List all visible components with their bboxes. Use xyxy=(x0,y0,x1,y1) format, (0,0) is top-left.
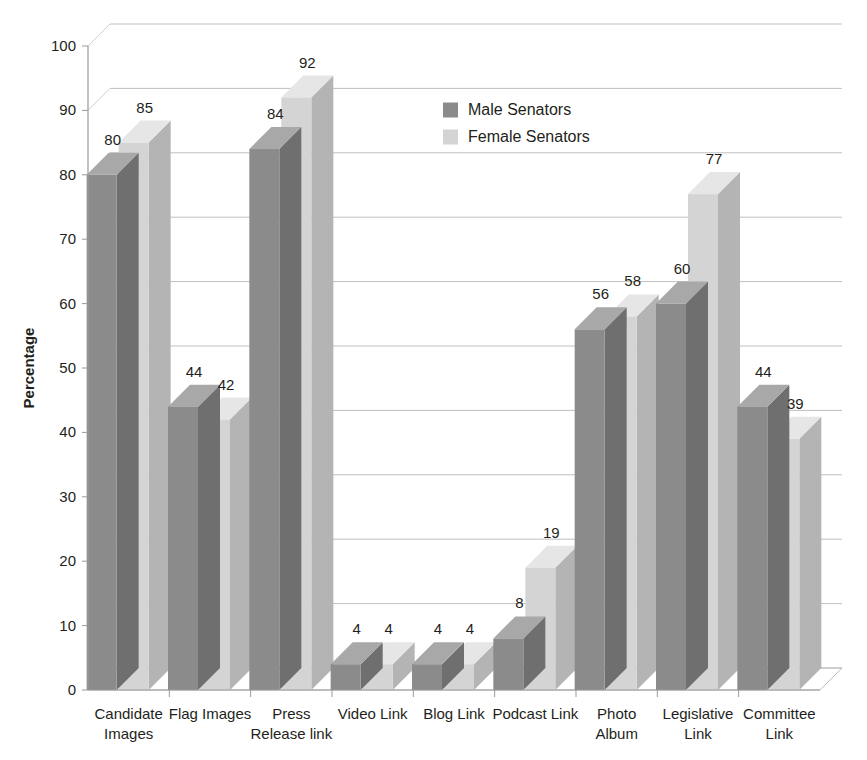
x-axis-category-label: Images xyxy=(104,725,153,742)
y-axis-tick-label: 20 xyxy=(59,552,76,569)
x-axis-category-label: Blog Link xyxy=(423,705,485,722)
bar-value-label: 44 xyxy=(755,363,772,380)
y-axis-tick-label: 60 xyxy=(59,295,76,312)
bar-front-face xyxy=(493,638,523,690)
y-axis-tick-label: 30 xyxy=(59,488,76,505)
bar-value-label: 44 xyxy=(186,363,203,380)
x-axis-category-label: Committee xyxy=(743,705,816,722)
bar-value-label: 58 xyxy=(624,272,641,289)
legend-label: Male Senators xyxy=(468,101,571,118)
legend-swatch xyxy=(443,130,458,145)
bar-side-face xyxy=(198,385,220,690)
bar-value-label: 85 xyxy=(136,99,153,116)
bar-side-face xyxy=(767,385,789,690)
bar-value-label: 92 xyxy=(299,54,316,71)
bar-value-label: 42 xyxy=(218,376,235,393)
bar-side-face xyxy=(637,294,659,690)
bar-front-face xyxy=(412,664,442,690)
bar-front-face xyxy=(168,407,198,690)
bar-side-face xyxy=(555,546,577,690)
bar-front-face xyxy=(656,304,686,690)
bar-value-label: 4 xyxy=(352,620,360,637)
bar-value-label: 39 xyxy=(787,395,804,412)
bar-side-face xyxy=(686,282,708,690)
bar-side-face xyxy=(117,153,139,690)
x-axis-category-label: Photo xyxy=(597,705,636,722)
x-axis-category-label: Legislative xyxy=(663,705,734,722)
bar-side-face xyxy=(311,76,333,690)
bar[interactable] xyxy=(87,153,139,690)
y-axis-tick-label: 10 xyxy=(59,617,76,634)
bar-front-face xyxy=(575,329,605,690)
bar-side-face xyxy=(799,417,821,690)
bar-value-label: 60 xyxy=(674,260,691,277)
x-axis-category-label: Link xyxy=(684,725,712,742)
y-axis-tick-label: 100 xyxy=(51,37,76,54)
bar-side-face xyxy=(605,307,627,690)
y-axis-tick-label: 90 xyxy=(59,101,76,118)
x-axis-category-label: Podcast Link xyxy=(492,705,578,722)
bar[interactable] xyxy=(656,282,708,690)
bar-value-label: 19 xyxy=(543,524,560,541)
bar-value-label: 8 xyxy=(515,594,523,611)
bar-front-face xyxy=(737,407,767,690)
bar-value-label: 56 xyxy=(592,285,609,302)
x-axis-category-label: Album xyxy=(595,725,638,742)
x-axis-category-label: Press xyxy=(272,705,310,722)
bar-value-label: 84 xyxy=(267,105,284,122)
y-axis-tick-label: 0 xyxy=(68,681,76,698)
legend-entry: Male Senators xyxy=(443,101,571,118)
bar[interactable] xyxy=(575,307,627,690)
x-axis-category-label: Flag Images xyxy=(169,705,252,722)
gridline-depth-connector xyxy=(88,88,110,110)
bar[interactable] xyxy=(249,127,301,690)
bar-side-face xyxy=(718,172,740,690)
category-labels-group: CandidateImagesFlag ImagesPressRelease l… xyxy=(94,705,815,742)
legend-label: Female Senators xyxy=(468,128,590,145)
bar[interactable] xyxy=(737,385,789,690)
x-axis-category-label: Link xyxy=(766,725,794,742)
y-axis-tick-label: 50 xyxy=(59,359,76,376)
y-axis-tick-label: 40 xyxy=(59,423,76,440)
x-axis-category-label: Video Link xyxy=(338,705,408,722)
x-axis-category-label: Release link xyxy=(250,725,332,742)
bar-value-label: 77 xyxy=(706,150,723,167)
bar-front-face xyxy=(249,149,279,690)
bars-group xyxy=(87,76,822,690)
bar-value-label: 4 xyxy=(434,620,442,637)
legend-group: Male SenatorsFemale Senators xyxy=(443,101,590,145)
chart-container: 0102030405060708090100Percentage85804244… xyxy=(0,0,867,760)
legend-entry: Female Senators xyxy=(443,128,590,145)
gridline-depth-connector xyxy=(88,24,110,46)
bar-value-label: 4 xyxy=(384,620,392,637)
bar-chart: 0102030405060708090100Percentage85804244… xyxy=(0,0,867,760)
bar-front-face xyxy=(87,175,117,690)
bar-side-face xyxy=(279,127,301,690)
y-axis-tick-label: 70 xyxy=(59,230,76,247)
bar-front-face xyxy=(331,664,361,690)
y-axis-title: Percentage xyxy=(20,328,37,409)
bar[interactable] xyxy=(168,385,220,690)
bar-value-label: 4 xyxy=(466,620,474,637)
bar-value-label: 80 xyxy=(104,131,121,148)
bar-side-face xyxy=(149,121,171,690)
bar-side-face xyxy=(230,398,252,690)
x-axis-category-label: Candidate xyxy=(94,705,162,722)
y-axis-tick-label: 80 xyxy=(59,166,76,183)
legend-swatch xyxy=(443,103,458,118)
